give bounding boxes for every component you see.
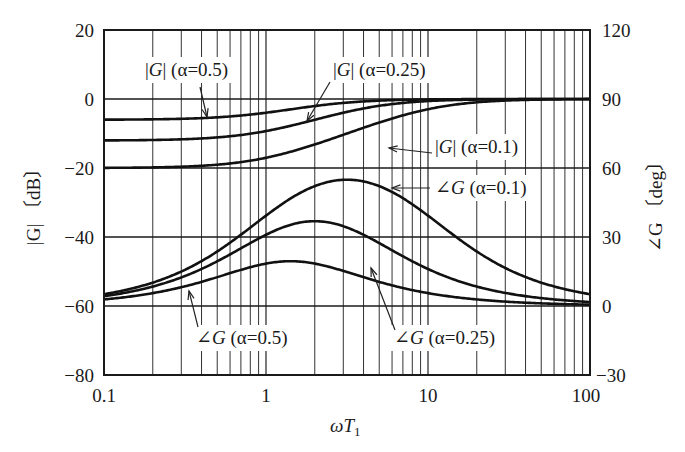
- bode-chart: 20 0 −20 −40 −60 −80 120 90 60 30 0 −30 …: [0, 0, 685, 452]
- left-tick-m40: −40: [64, 227, 94, 248]
- left-axis-ticks: 20 0 −20 −40 −60 −80: [64, 20, 94, 386]
- arrow-line: [389, 148, 432, 153]
- left-tick-20: 20: [75, 20, 94, 41]
- arrow-line: [307, 82, 330, 121]
- left-tick-m20: −20: [64, 158, 94, 179]
- annotation-mag-alpha-0.25: |G| (α=0.25): [333, 59, 426, 81]
- right-axis-ticks: 120 90 60 30 0 −30: [596, 20, 631, 386]
- right-tick-120: 120: [602, 20, 631, 41]
- left-tick-m60: −60: [64, 296, 94, 317]
- right-tick-60: 60: [602, 158, 621, 179]
- left-tick-m80: −80: [64, 365, 94, 386]
- arrow-line: [189, 291, 198, 327]
- curves: [104, 99, 590, 305]
- right-tick-90: 90: [602, 89, 621, 110]
- annotation-mag-alpha-0.5: |G| (α=0.5): [145, 59, 228, 81]
- x-tick-100: 100: [572, 385, 601, 406]
- x-axis-label: ωT1: [330, 415, 361, 439]
- right-tick-30: 30: [602, 227, 621, 248]
- annotation-phase-alpha-0.5: ∠G (α=0.5): [196, 327, 287, 349]
- annotation-backgrounds: [141, 57, 530, 351]
- x-tick-10: 10: [419, 385, 438, 406]
- right-tick-0: 0: [602, 296, 612, 317]
- arrow-line: [371, 268, 395, 330]
- x-tick-1: 1: [261, 385, 271, 406]
- curve-mag-alpha-0.5: [104, 99, 590, 120]
- left-tick-0: 0: [85, 89, 95, 110]
- curve-phase-alpha-0.25: [104, 221, 590, 302]
- curve-phase-alpha-0.5: [104, 261, 590, 304]
- annotation-mag-alpha-0.1: |G| (α=0.1): [435, 136, 518, 158]
- annotation-phase-alpha-0.25: ∠G (α=0.25): [394, 327, 495, 349]
- x-tick-0.1: 0.1: [92, 385, 116, 406]
- right-tick-m30: −30: [596, 365, 626, 386]
- annotation-arrows: [188, 82, 432, 330]
- x-axis-ticks: 0.1 1 10 100: [92, 385, 600, 406]
- right-axis-label: ∠G 〔deg〕: [645, 152, 666, 252]
- left-axis-label: |G| 〔dB〕: [23, 159, 44, 245]
- annotation-phase-alpha-0.1: ∠G (α=0.1): [435, 177, 526, 199]
